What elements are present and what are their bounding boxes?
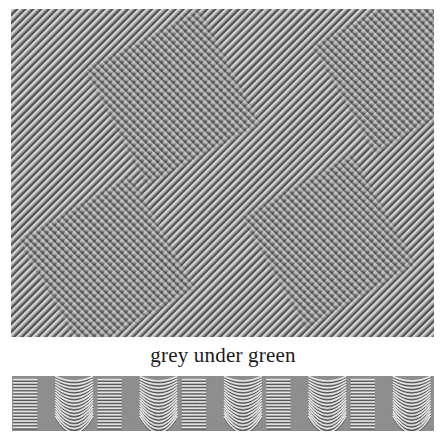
strip-grain-overlay: [12, 376, 434, 431]
top-texture-panel: [11, 9, 434, 337]
print-grain-overlay: [11, 9, 434, 337]
figure-caption: grey under green: [0, 340, 446, 370]
top-panel-svg: [11, 9, 434, 337]
bottom-texture-strip: [12, 376, 434, 431]
texture-figure: grey under green: [0, 0, 446, 435]
bottom-panel-svg: [12, 376, 434, 431]
